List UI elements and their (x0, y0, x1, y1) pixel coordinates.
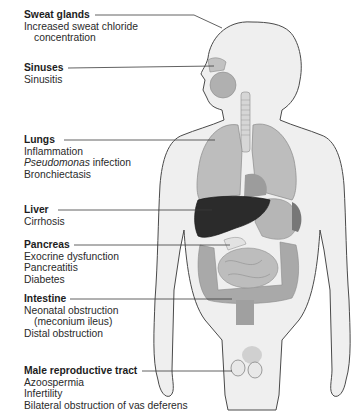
label-male-reproductive-tract: Male reproductive tract Azoospermia Infe… (24, 365, 188, 411)
organ-title: Male reproductive tract (24, 365, 137, 377)
finding: Diabetes (24, 274, 119, 286)
organ-title: Lungs (24, 134, 55, 146)
finding: concentration (24, 32, 138, 44)
oral-cavity (210, 72, 236, 98)
finding: (meconium ileus) (24, 316, 118, 328)
finding: Pancreatitis (24, 262, 119, 274)
finding: Increased sweat chloride (24, 21, 138, 33)
finding: Sinusitis (24, 74, 64, 86)
finding: Infertility (24, 388, 188, 400)
right-testis (248, 362, 262, 378)
finding-suffix: infection (90, 157, 131, 168)
left-testis (231, 360, 245, 376)
small-intestine (218, 248, 278, 288)
organ-title: Pancreas (24, 239, 70, 251)
organ-title: Liver (24, 204, 49, 216)
label-sinuses: Sinuses Sinusitis (24, 62, 64, 85)
label-sweat-glands: Sweat glands Increased sweat chloride co… (24, 9, 138, 44)
finding: Bilateral obstruction of vas deferens (24, 400, 188, 412)
finding: Neonatal obstruction (24, 305, 118, 317)
organ-title: Sweat glands (24, 9, 90, 21)
label-intestine: Intestine Neonatal obstruction (meconium… (24, 293, 118, 339)
organ-title: Intestine (24, 293, 66, 305)
finding: Exocrine dysfunction (24, 251, 119, 263)
label-lungs: Lungs Inflammation Pseudomonas infection… (24, 134, 131, 180)
label-liver: Liver Cirrhosis (24, 204, 65, 227)
finding: Bronchiectasis (24, 169, 131, 181)
finding: Distal obstruction (24, 328, 118, 340)
trachea (241, 92, 250, 152)
organ-title: Sinuses (24, 62, 64, 74)
finding: Azoospermia (24, 377, 188, 389)
label-pancreas: Pancreas Exocrine dysfunction Pancreatit… (24, 239, 119, 285)
cystic-fibrosis-organ-diagram: Sweat glands Increased sweat chloride co… (0, 0, 359, 415)
finding: Inflammation (24, 146, 131, 158)
leader-sinuses (68, 66, 214, 68)
finding: Pseudomonas infection (24, 157, 131, 169)
finding: Cirrhosis (24, 216, 65, 228)
rectum (236, 300, 254, 325)
bladder (242, 346, 262, 364)
pathogen-name: Pseudomonas (24, 157, 90, 168)
sinus-region (208, 58, 226, 72)
